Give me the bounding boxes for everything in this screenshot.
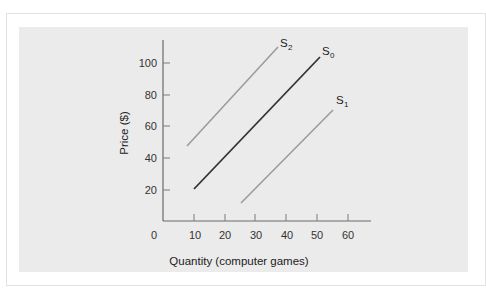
x-tick-10: 10 [189,229,201,241]
curve-s1 [241,110,333,203]
svg-text:2: 2 [288,43,293,52]
x-tick-50: 50 [311,229,323,241]
label-s0: S 0 [322,45,335,60]
x-ticks [194,214,348,221]
svg-text:S: S [280,37,288,49]
y-tick-80: 80 [145,89,157,101]
svg-text:S: S [336,94,344,106]
y-tick-labels: 100 80 60 40 20 [139,57,157,196]
y-axis-title: Price ($) [118,111,130,155]
y-ticks [163,63,170,190]
x-tick-labels: 0 10 20 30 40 50 60 [151,229,354,241]
y-tick-100: 100 [139,57,157,69]
label-s2: S 2 [280,37,293,52]
svg-text:1: 1 [344,100,349,109]
x-axis-title: Quantity (computer games) [169,255,309,267]
curve-s2 [187,47,278,146]
x-tick-40: 40 [281,229,293,241]
x-tick-20: 20 [219,229,231,241]
y-tick-20: 20 [145,184,157,196]
x-tick-30: 30 [250,229,262,241]
y-tick-40: 40 [145,152,157,164]
x-tick-0: 0 [151,229,157,241]
label-s1: S 1 [336,94,349,109]
x-tick-60: 60 [342,229,354,241]
curve-s0 [194,57,320,189]
y-tick-60: 60 [145,120,157,132]
svg-text:S: S [322,45,330,57]
svg-text:0: 0 [330,51,335,60]
